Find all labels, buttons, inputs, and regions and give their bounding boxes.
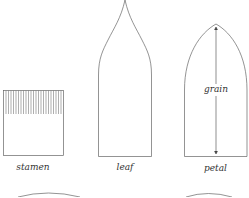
leaf-label: leaf [98,162,152,172]
partial-piece-right [186,194,232,198]
leaf-outline [99,0,152,157]
grain-label: grain [198,84,234,94]
stamen-fringe [6,91,61,115]
petal-label: petal [184,163,247,173]
stamen-label: stamen [3,162,63,172]
partial-piece-left [18,193,80,197]
